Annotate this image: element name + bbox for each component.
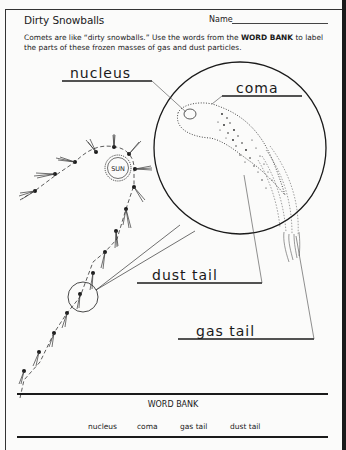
- leader-lines: [152, 81, 314, 339]
- answer-dust-tail: dust tail: [152, 267, 218, 283]
- word-bank-bottom-rule: [17, 436, 328, 438]
- word-bank-item: coma: [137, 422, 180, 431]
- word-bank-item: dust tail: [230, 422, 260, 431]
- comet-tails: [19, 134, 152, 384]
- comet-diagram: SUN: [0, 0, 346, 450]
- word-bank-list: nucleus coma gas tail dust tail: [88, 422, 260, 431]
- sun-icon: SUN: [105, 155, 131, 181]
- word-bank-item: nucleus: [88, 422, 137, 431]
- sun-label: SUN: [111, 165, 125, 173]
- label-lines: [62, 81, 314, 339]
- comet-positions: [22, 145, 137, 373]
- word-bank-item: gas tail: [180, 422, 230, 431]
- worksheet-page: Dirty Snowballs Name Comets are like “di…: [0, 0, 346, 450]
- nucleus-shape: [184, 109, 196, 119]
- word-bank-top-rule: [17, 393, 328, 395]
- answer-coma: coma: [236, 80, 278, 96]
- word-bank-title: WORD BANK: [0, 400, 346, 409]
- magnifier-circle: [68, 282, 98, 312]
- answer-gas-tail: gas tail: [196, 323, 255, 339]
- answer-nucleus: nucleus: [70, 65, 131, 81]
